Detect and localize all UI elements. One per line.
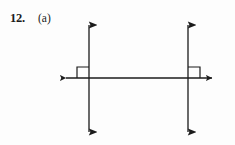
right-angle-mark-right [188, 67, 200, 78]
right-angle-mark-left [77, 67, 89, 78]
geometry-diagram [0, 0, 235, 145]
figure-container: 12. (a) [0, 0, 235, 145]
